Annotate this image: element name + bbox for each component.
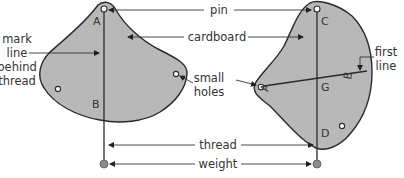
pin-label-group: pin <box>109 3 311 17</box>
small-holes-label-1: small <box>194 71 225 85</box>
thread-label-group: thread <box>109 138 313 152</box>
mark-line-label-2: line <box>7 46 28 60</box>
mark-line-label-4: thread <box>0 74 36 88</box>
right-point-c: C <box>321 15 329 28</box>
weight-label: weight <box>199 157 238 171</box>
plumb-line-diagram: A B C G D A B pin cardboard mark line be… <box>0 0 404 178</box>
left-pin-hole <box>101 6 107 12</box>
right-point-d: D <box>321 127 329 140</box>
mark-line-label-3: behind <box>0 60 37 74</box>
left-small-hole-left <box>55 86 60 91</box>
weight-label-group: weight <box>110 157 311 171</box>
left-small-hole-right <box>173 71 178 76</box>
left-cardboard: A B <box>40 2 187 168</box>
right-point-g: G <box>321 81 330 94</box>
small-holes-leader-right <box>236 80 256 85</box>
thread-label: thread <box>199 138 237 152</box>
cardboard-label-group: cardboard <box>128 30 303 44</box>
small-holes-label-group: small holes <box>180 71 256 99</box>
left-weight <box>100 160 108 168</box>
left-point-a: A <box>93 15 101 28</box>
small-holes-label-2: holes <box>194 85 225 99</box>
right-cardboard: C G D A B <box>254 2 372 168</box>
right-weight <box>313 160 321 168</box>
pin-label: pin <box>210 3 228 17</box>
left-point-b: B <box>92 98 100 111</box>
cardboard-label: cardboard <box>188 30 246 44</box>
right-small-hole-bottom <box>339 123 344 128</box>
right-pin-hole <box>314 6 320 12</box>
first-line-label-1: first <box>375 45 398 59</box>
left-cardboard-shape <box>40 2 187 122</box>
first-line-label-2: line <box>376 59 397 73</box>
mark-line-label-1: mark <box>2 32 32 46</box>
